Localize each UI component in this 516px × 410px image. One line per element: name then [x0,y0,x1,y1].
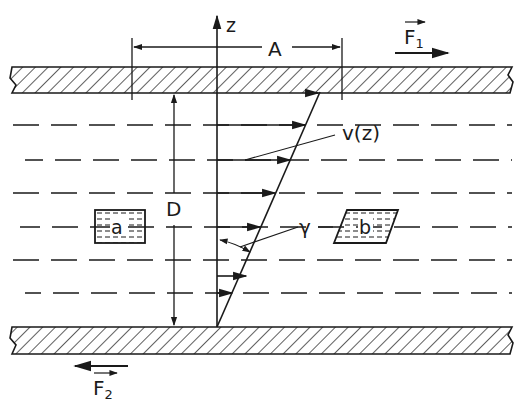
velocity-arrows [217,125,305,293]
shear-angle-label: γ [299,215,311,239]
force-bottom-label: F2 [93,376,113,402]
bottom-plate [10,327,513,354]
velocity-label: v(z) [342,121,380,145]
velocity-profile-line [217,92,320,327]
fluid-layer-lines [13,125,512,293]
area-label: A [268,37,282,61]
shear-flow-diagram: A z F1 F2 D v(z) [0,0,516,410]
force-top-label: F1 [404,25,424,51]
leader-lines [240,135,335,247]
distance-label: D [166,197,181,221]
top-plate [10,67,513,93]
element-a-label: a [111,216,123,238]
shear-angle-arc [220,240,250,252]
force-bottom-arrow [75,366,128,373]
z-axis-label: z [226,14,236,36]
element-b-label: b [359,216,371,238]
